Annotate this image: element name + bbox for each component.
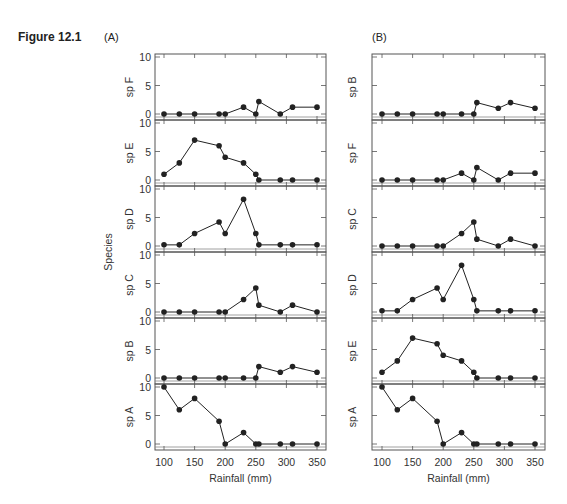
figure-canvas: 0510sp F0510sp E0510sp D0510sp C0510sp B… <box>0 0 567 504</box>
data-point <box>177 111 183 117</box>
x-tick-label: 350 <box>526 456 544 468</box>
data-point <box>277 441 283 447</box>
x-tick-label: 150 <box>404 456 422 468</box>
data-point <box>508 236 514 242</box>
subplot-sp-c: sp C <box>346 186 545 252</box>
y-tick-label: 10 <box>139 381 151 393</box>
y-tick-label: 5 <box>145 344 151 356</box>
data-point <box>277 242 283 248</box>
data-point <box>314 242 320 248</box>
data-point <box>508 441 514 447</box>
data-point <box>290 302 296 308</box>
data-point <box>222 375 228 381</box>
x-tick-label: 300 <box>278 456 296 468</box>
data-point <box>434 418 440 424</box>
data-point <box>474 165 480 171</box>
data-point <box>495 106 501 112</box>
x-tick-label: 150 <box>186 456 204 468</box>
data-point <box>253 172 259 178</box>
data-point <box>379 177 385 183</box>
data-point <box>508 100 514 106</box>
data-point <box>471 219 477 225</box>
subplot-sp-b: sp B <box>346 54 545 120</box>
data-point <box>192 309 198 315</box>
data-point <box>410 396 416 402</box>
subplot-label: sp D <box>346 274 358 296</box>
data-point <box>241 375 247 381</box>
subplot-sp-e: sp E <box>346 318 545 384</box>
data-point <box>379 370 385 376</box>
data-point <box>216 219 222 225</box>
x-tick-label: 350 <box>308 456 326 468</box>
y-tick-label: 10 <box>139 249 151 261</box>
subplot-label: sp F <box>123 77 135 97</box>
data-point <box>440 177 446 183</box>
data-point <box>459 231 465 237</box>
data-point <box>434 243 440 249</box>
data-point <box>222 154 228 160</box>
data-point <box>216 375 222 381</box>
data-point <box>474 375 480 381</box>
y-tick-label: 0 <box>145 438 151 450</box>
data-point <box>440 243 446 249</box>
y-tick-label: 5 <box>145 80 151 92</box>
data-point <box>222 309 228 315</box>
data-point <box>459 358 465 364</box>
data-point <box>222 441 228 447</box>
data-point <box>314 441 320 447</box>
subplot-sp-e: 0510sp E <box>123 117 326 186</box>
data-point <box>216 418 222 424</box>
data-point <box>474 308 480 314</box>
data-point <box>290 177 296 183</box>
data-point <box>459 430 465 436</box>
data-point <box>290 104 296 110</box>
data-point <box>395 407 401 413</box>
y-tick-label: 5 <box>145 146 151 158</box>
data-point <box>459 170 465 176</box>
data-point <box>440 297 446 303</box>
data-point <box>192 396 198 402</box>
data-point <box>253 375 259 381</box>
data-point <box>253 285 259 291</box>
data-point <box>256 441 262 447</box>
data-point <box>241 104 247 110</box>
subplot-label: sp E <box>123 142 135 163</box>
data-point <box>474 236 480 242</box>
data-point <box>314 104 320 110</box>
data-point <box>379 243 385 249</box>
data-point <box>177 407 183 413</box>
data-point <box>277 370 283 376</box>
data-point <box>177 242 183 248</box>
data-point <box>177 309 183 315</box>
subplot-sp-b: 0510sp B <box>123 315 326 384</box>
subplot-sp-a: 0510sp A <box>123 381 326 450</box>
x-axis-label: Rainfall (mm) <box>209 472 271 484</box>
subplot-label: sp B <box>346 76 358 97</box>
data-point <box>277 111 283 117</box>
x-tick-label: 250 <box>247 456 265 468</box>
data-point <box>379 308 385 314</box>
data-point <box>471 111 477 117</box>
data-point <box>290 242 296 248</box>
data-point <box>192 375 198 381</box>
data-point <box>395 243 401 249</box>
x-tick-label: 100 <box>155 456 173 468</box>
x-axis-label: Rainfall (mm) <box>427 472 489 484</box>
data-point <box>177 375 183 381</box>
data-point <box>256 99 262 105</box>
data-point <box>434 285 440 291</box>
data-point <box>241 196 247 202</box>
data-point <box>314 309 320 315</box>
x-tick-label: 100 <box>373 456 391 468</box>
data-point <box>277 177 283 183</box>
data-point <box>241 430 247 436</box>
data-point <box>508 375 514 381</box>
data-point <box>434 341 440 347</box>
subplot-label: sp F <box>346 143 358 163</box>
data-point <box>395 308 401 314</box>
data-point <box>495 441 501 447</box>
data-point <box>434 111 440 117</box>
data-point <box>161 384 167 390</box>
data-point <box>471 177 477 183</box>
subplot-label: sp E <box>346 340 358 361</box>
